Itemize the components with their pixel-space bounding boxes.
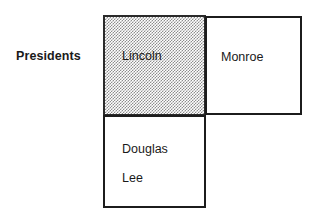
cell-monroe[interactable]: Monroe <box>205 16 302 115</box>
cell-label-lincoln: Lincoln <box>122 50 162 63</box>
presidents-diagram: Presidents Lincoln Monroe Douglas Lee <box>0 0 312 219</box>
cell-label-monroe: Monroe <box>221 51 263 64</box>
cell-label-lee: Lee <box>122 172 143 185</box>
cell-lower[interactable]: Douglas Lee <box>103 115 206 208</box>
row-label-presidents: Presidents <box>16 49 81 63</box>
cell-label-douglas: Douglas <box>122 143 168 156</box>
cell-lincoln[interactable]: Lincoln <box>103 15 206 116</box>
